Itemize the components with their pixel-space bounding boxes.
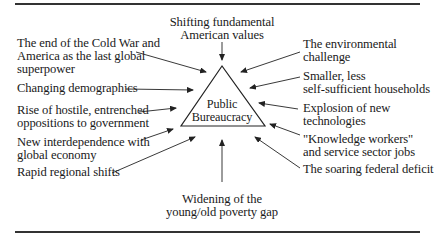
top-factor-line-2: American values (162, 29, 282, 42)
left-factor-regional-shifts: Rapid regional shifts (17, 166, 120, 179)
top-factor: Shifting fundamental American values (162, 16, 282, 42)
right-factor-technologies: Explosion of new technologies (303, 102, 390, 128)
factor-line: Rapid regional shifts (17, 166, 120, 179)
factor-line: oppositions to government (17, 117, 149, 130)
left-factor-demographics: Changing demographics (17, 82, 138, 95)
left-factor-cold-war: The end of the Cold War and America as t… (17, 37, 160, 76)
factor-line: technologies (303, 115, 390, 128)
center-line-2: Bureaucracy (182, 111, 262, 124)
left-factor-interdependence: New interdependence with global economy (17, 136, 150, 162)
left-factor-hostile-opposition: Rise of hostile, entrenched oppositions … (17, 104, 149, 130)
right-factor-environment: The environmental challenge (303, 38, 397, 64)
bottom-factor: Widening of the young/old poverty gap (152, 193, 292, 219)
factor-line: and service sector jobs (303, 146, 415, 159)
right-factor-households: Smaller, less self-sufficient households (303, 70, 430, 96)
bottom-factor-line-2: young/old poverty gap (152, 206, 292, 219)
factor-line: Changing demographics (17, 82, 138, 95)
right-factor-knowledge-workers: "Knowledge workers" and service sector j… (303, 133, 415, 159)
center-label: Public Bureaucracy (182, 98, 262, 124)
right-factor-federal-deficit: The soaring federal deficit (303, 163, 434, 176)
factor-line: challenge (303, 51, 397, 64)
factor-line: superpower (17, 63, 160, 76)
factor-line: global economy (17, 149, 150, 162)
factor-line: self-sufficient households (303, 83, 430, 96)
factor-line: The soaring federal deficit (303, 163, 434, 176)
